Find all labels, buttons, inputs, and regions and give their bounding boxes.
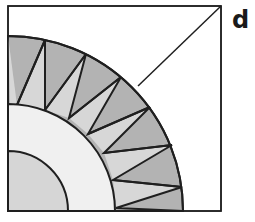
- quilt-fan-diagram: [0, 0, 255, 222]
- figure-label: d: [232, 8, 249, 32]
